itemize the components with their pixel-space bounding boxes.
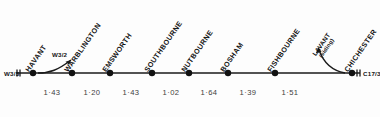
terminal-label-w33: W3/3: [4, 70, 19, 77]
terminal-label-c173: C17/3: [363, 70, 380, 77]
distance-havant-warblington: 1·43: [44, 88, 61, 97]
distance-bosham-fishbourne: 1·39: [240, 88, 257, 97]
distance-fishbourne-chichester: 1·51: [282, 88, 299, 97]
distance-emsworth-southbourne: 1·43: [123, 88, 140, 97]
distance-nutbourne-bosham: 1·64: [201, 88, 218, 97]
distance-southbourne-nutbourne: 1·02: [163, 88, 180, 97]
railway-line-diagram: HAVANT WARBLINGTON EMSWORTH SOUTHBOURNE …: [0, 0, 380, 117]
distance-warblington-emsworth: 1·20: [84, 88, 101, 97]
branch-label-w32: W3/2: [52, 51, 67, 58]
